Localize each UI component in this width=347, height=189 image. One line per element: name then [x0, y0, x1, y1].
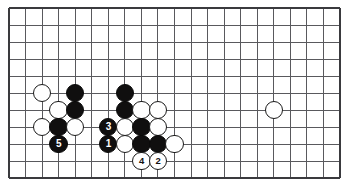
- go-board-diagram: 35142: [0, 0, 347, 189]
- board-grid: [0, 0, 347, 189]
